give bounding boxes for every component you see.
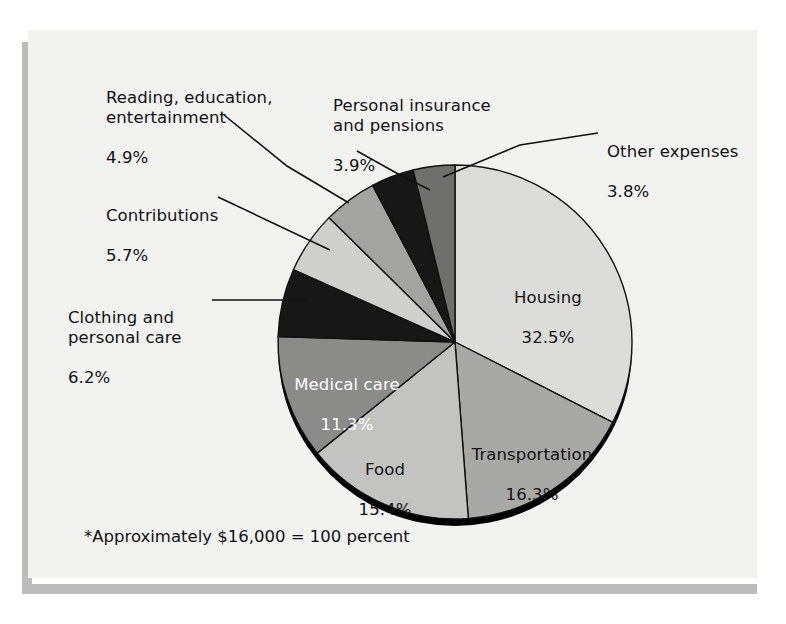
label-housing-name: Housing [488, 288, 608, 308]
label-reading-name: Reading, education, entertainment [106, 88, 272, 128]
label-food-name: Food [340, 460, 430, 480]
label-other-expenses-name: Other expenses [607, 142, 739, 162]
label-clothing-name: Clothing and personal care [68, 308, 182, 348]
label-clothing-pct: 6.2% [68, 368, 182, 388]
label-personal-insurance-pct: 3.9% [333, 156, 491, 176]
label-reading-education-entertainment: Reading, education, entertainment 4.9% [106, 68, 272, 188]
label-reading-pct: 4.9% [106, 148, 272, 168]
pie-chart: Reading, education, entertainment 4.9% P… [0, 0, 786, 624]
label-transportation: Transportation 16.3% [452, 425, 612, 525]
label-transportation-pct: 16.3% [452, 485, 612, 505]
label-food-pct: 15.4% [340, 500, 430, 520]
leader-contributions [218, 197, 330, 250]
label-contributions-name: Contributions [106, 206, 218, 226]
label-contributions-pct: 5.7% [106, 246, 218, 266]
chart-footnote: *Approximately $16,000 = 100 percent [84, 527, 410, 547]
label-housing-pct: 32.5% [488, 328, 608, 348]
label-transportation-name: Transportation [452, 445, 612, 465]
label-personal-insurance-name: Personal insurance and pensions [333, 96, 491, 136]
label-personal-insurance-and-pensions: Personal insurance and pensions 3.9% [333, 76, 491, 196]
label-clothing-and-personal-care: Clothing and personal care 6.2% [68, 288, 182, 408]
label-housing: Housing 32.5% [488, 268, 608, 368]
label-medical-care: Medical care 11.3% [282, 355, 412, 455]
label-contributions: Contributions 5.7% [106, 186, 218, 286]
chart-figure: Reading, education, entertainment 4.9% P… [0, 0, 786, 624]
label-medical-care-pct: 11.3% [282, 415, 412, 435]
label-food: Food 15.4% [340, 440, 430, 540]
label-medical-care-name: Medical care [282, 375, 412, 395]
label-other-expenses-pct: 3.8% [607, 182, 739, 202]
label-other-expenses: Other expenses 3.8% [607, 122, 739, 222]
